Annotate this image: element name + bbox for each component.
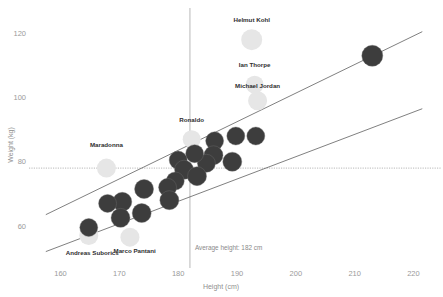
bubbles-group xyxy=(79,29,383,246)
x-tick-label: 160 xyxy=(54,269,67,278)
x-tick-label: 170 xyxy=(113,269,126,278)
x-tick-label: 200 xyxy=(290,269,303,278)
chart-canvas: 6080100120 160170180190200210220 Helmut … xyxy=(0,0,443,297)
y-tick-label: 80 xyxy=(18,157,26,166)
x-tick-label: 210 xyxy=(348,269,361,278)
data-bubble[interactable] xyxy=(132,204,151,223)
data-bubble[interactable] xyxy=(80,219,98,237)
x-axis-title: Height (cm) xyxy=(203,283,239,291)
y-tick-label: 100 xyxy=(13,93,26,102)
bubble-label: Maradonna xyxy=(90,141,124,148)
x-tick-label: 220 xyxy=(407,269,420,278)
data-bubble[interactable] xyxy=(227,127,245,145)
highlighted-bubble[interactable] xyxy=(120,228,139,247)
data-bubble[interactable] xyxy=(188,167,207,186)
y-axis-title: Weight (kg) xyxy=(7,127,15,163)
data-bubble[interactable] xyxy=(223,152,242,171)
scatter-chart: 6080100120 160170180190200210220 Helmut … xyxy=(0,0,443,297)
highlighted-bubble[interactable] xyxy=(241,29,262,50)
data-bubble[interactable] xyxy=(99,194,117,212)
highlighted-bubble[interactable] xyxy=(97,159,116,178)
highlighted-bubble[interactable] xyxy=(248,91,267,110)
average-height-annotation: Average height: 182 cm xyxy=(195,244,262,252)
bubble-label: Ronaldo xyxy=(179,116,204,123)
data-bubble[interactable] xyxy=(111,208,130,227)
bubble-label: Marco Pantani xyxy=(113,247,156,254)
y-tick-label: 120 xyxy=(13,29,26,38)
bubble-label: Helmut Kohl xyxy=(233,16,270,23)
data-bubble[interactable] xyxy=(247,127,265,145)
data-bubble[interactable] xyxy=(186,145,204,163)
bubble-label: Michael Jordan xyxy=(235,82,280,89)
x-tick-label: 190 xyxy=(231,269,244,278)
bubble-label: Andreas Suborics xyxy=(66,249,120,256)
annotations-group: Average height: 182 cm xyxy=(195,244,262,252)
bubble-label: Ian Thorpe xyxy=(239,61,271,68)
y-axis-group: 6080100120 xyxy=(13,29,26,231)
data-bubble[interactable] xyxy=(362,45,383,66)
x-tick-label: 180 xyxy=(172,269,185,278)
x-axis-group: 160170180190200210220 xyxy=(54,269,419,278)
data-bubble[interactable] xyxy=(135,179,154,198)
data-bubble[interactable] xyxy=(160,191,179,210)
y-tick-label: 60 xyxy=(18,222,26,231)
